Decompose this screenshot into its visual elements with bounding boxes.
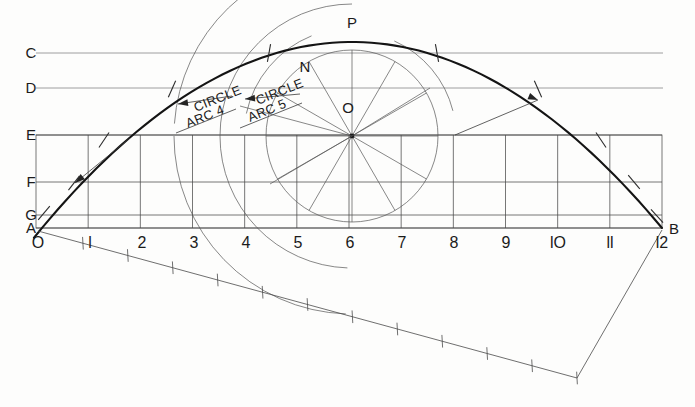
scale-number-7: 7: [398, 234, 407, 251]
scale-number-10: lO: [550, 234, 566, 251]
point-labels-group: PNOAB: [26, 14, 679, 237]
scale-number-11: ll: [606, 234, 613, 251]
ruler-tick-2: [127, 249, 128, 262]
chord-lower-right: [352, 88, 430, 136]
scale-number-12: l2: [656, 234, 669, 251]
scale-number-2: 2: [138, 234, 147, 251]
leader-lower-right-arrowhead: [527, 93, 538, 100]
ruler-tick-10: [487, 347, 488, 360]
ruler-tick-7: [352, 310, 353, 323]
scale-number-5: 5: [294, 234, 303, 251]
chord-mid-left: [270, 136, 352, 184]
ruler-tick-1: [83, 237, 84, 250]
point-label-p: P: [347, 14, 357, 31]
tick-on-arc-0: [38, 206, 50, 220]
construction-arc-lower-5: [220, 136, 347, 268]
circle-spoke-5: [309, 136, 352, 210]
leader-lines-group: [75, 93, 538, 183]
datum-label-E: E: [26, 126, 36, 143]
annotation-notes-group: CIRCLEARC 4CIRCLEARC 5: [176, 75, 306, 133]
ruler-tick-6: [307, 298, 308, 311]
technical-drawing-page: CDEFG Ol23456789lOlll2 PNOAB CIRCLEARC 4…: [0, 0, 695, 407]
leader-lower-right: [455, 100, 538, 135]
scale-number-6: 6: [346, 234, 355, 251]
point-label-o: O: [342, 99, 354, 116]
scale-number-9: 9: [502, 234, 511, 251]
ruler-tick-8: [397, 323, 398, 336]
grid-group: [36, 135, 662, 228]
datum-labels-group: CDEFG: [25, 44, 37, 223]
construction-arcs-group: [174, 0, 453, 314]
tick-on-arc-6: [534, 81, 541, 97]
drawing-canvas: CDEFG Ol23456789lOlll2 PNOAB CIRCLEARC 4…: [0, 0, 695, 407]
ruler-tick-9: [442, 335, 443, 348]
scale-number-0: O: [32, 234, 44, 251]
circle-arc-5: [220, 4, 352, 136]
ruler-return-line: [577, 230, 662, 378]
datum-label-C: C: [26, 44, 37, 61]
construction-arc-lower-4: [174, 136, 346, 314]
point-label-b: B: [669, 220, 679, 237]
ruler-tick-11: [532, 359, 533, 372]
circle-spoke-2: [278, 93, 352, 136]
point-label-n: N: [300, 58, 311, 75]
ruler-tick-5: [262, 286, 263, 299]
scale-number-4: 4: [242, 234, 251, 251]
datum-label-F: F: [26, 173, 35, 190]
angled-ruler-group: [38, 230, 662, 384]
tick-on-arc-3: [168, 81, 175, 97]
scale-number-8: 8: [450, 234, 459, 251]
scale-number-3: 3: [190, 234, 199, 251]
leader-lower-left: [75, 138, 130, 183]
ruler-tick-3: [172, 261, 173, 274]
ruler-tick-4: [217, 274, 218, 287]
point-label-a: A: [26, 219, 36, 236]
circle-spoke-10: [352, 93, 426, 136]
circle-spoke-7: [352, 136, 395, 210]
circle-spoke-11: [352, 62, 395, 136]
scale-numbers-group: Ol23456789lOlll2: [32, 234, 669, 251]
scale-number-1: l: [88, 234, 92, 251]
datum-label-D: D: [26, 79, 37, 96]
circle-spoke-8: [352, 136, 426, 179]
